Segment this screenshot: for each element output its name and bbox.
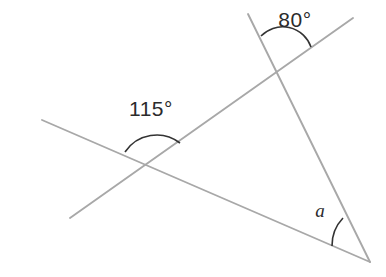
geometry-diagram: 80° 115° a [0, 0, 386, 277]
diagram-background [0, 0, 386, 277]
label-80-degrees: 80° [278, 8, 311, 31]
geometry-canvas: 80° 115° a [0, 0, 386, 277]
label-115-degrees: 115° [129, 97, 173, 120]
label-angle-a: a [315, 200, 325, 221]
